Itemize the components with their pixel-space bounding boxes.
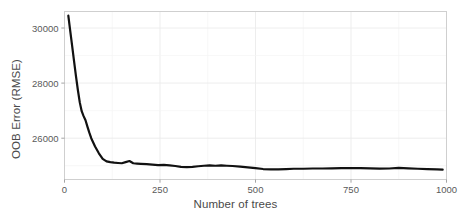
x-tick-label: 1000 bbox=[417, 184, 471, 195]
x-axis-title: Number of trees bbox=[0, 198, 471, 210]
chart-container: OOB Error (RMSE) Number of trees 0250500… bbox=[0, 0, 471, 218]
x-tick-label: 500 bbox=[226, 184, 286, 195]
y-tick-label: 26000 bbox=[0, 133, 59, 144]
y-tick-label: 30000 bbox=[0, 23, 59, 34]
x-tick-label: 750 bbox=[321, 184, 381, 195]
x-tick-label: 0 bbox=[35, 184, 95, 195]
x-tick-label: 250 bbox=[130, 184, 190, 195]
y-tick-label: 28000 bbox=[0, 78, 59, 89]
